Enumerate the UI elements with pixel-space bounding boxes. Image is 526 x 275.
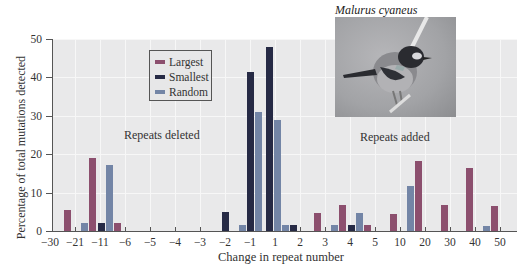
y-tick-label: 30 [20,110,42,122]
bar-random [356,213,363,231]
annotation-repeats-added: Repeats added [360,130,430,145]
grid-line-vertical [325,39,326,231]
y-tick-label: 20 [20,148,42,160]
bird-photo [335,17,456,117]
bar-random [106,165,113,231]
legend-label-smallest: Smallest [169,71,209,83]
legend-swatch-smallest [155,75,165,79]
bar-largest [491,206,498,231]
bar-largest [339,205,346,231]
bar-largest [390,214,397,231]
grid-line-vertical [100,39,101,231]
grid-line-horizontal [52,193,517,194]
y-tick-label: 50 [20,33,42,45]
bar-largest [441,205,448,231]
bird-icon [335,17,456,117]
bar-largest [415,161,422,231]
x-axis-title: Change in repeat number [218,250,344,265]
bar-random [274,120,281,231]
bar-smallest [98,223,105,231]
x-axis-line [52,231,517,232]
legend-item-random: Random [155,84,211,99]
y-axis-line [52,39,53,232]
legend-label-largest: Largest [169,56,203,68]
legend: Largest Smallest Random [149,50,212,101]
y-tick-label: 40 [20,71,42,83]
bar-smallest [266,47,273,231]
bar-largest [89,158,96,231]
grid-line-vertical [225,39,226,231]
legend-item-largest: Largest [155,54,211,69]
bar-largest [64,210,71,231]
legend-swatch-largest [155,60,165,64]
photo-caption: Malurus cyaneus [335,3,417,18]
grid-line-vertical [500,39,501,231]
bar-largest [466,168,473,231]
legend-label-random: Random [169,86,208,98]
bar-largest [114,223,121,231]
bar-random [81,223,88,231]
annotation-repeats-deleted: Repeats deleted [124,128,200,143]
bar-random [407,186,414,231]
grid-line-vertical [300,39,301,231]
bar-largest [314,213,321,231]
x-tick-label: 50 [485,236,515,248]
legend-swatch-random [155,90,165,94]
legend-item-smallest: Smallest [155,69,211,84]
bar-random [255,112,262,231]
y-tick-label: 10 [20,187,42,199]
grid-line-horizontal [52,154,517,155]
grid-line-vertical [75,39,76,231]
bar-smallest [247,72,254,231]
grid-line-vertical [475,39,476,231]
bar-smallest [222,212,229,231]
